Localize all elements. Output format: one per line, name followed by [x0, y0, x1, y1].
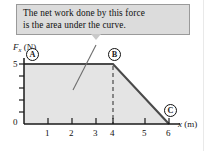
point-marker-a: A [26, 48, 39, 61]
x-tick-label-2: 2 [69, 128, 74, 138]
y-tick-label-5: 5 [13, 59, 18, 69]
point-marker-b: B [108, 48, 121, 61]
x-tick-label-6: 6 [166, 128, 171, 138]
y-tick-label-0: 0 [13, 117, 18, 127]
callout-line-1: The net work done by this force [23, 8, 183, 20]
x-tick-label-5: 5 [142, 128, 147, 138]
plot-area: Fx (N) x (m) [0, 40, 206, 151]
x-tick-label-1: 1 [45, 128, 50, 138]
x-tick-label-3: 3 [93, 128, 98, 138]
figure-root: The net work done by this force is the a… [0, 0, 206, 151]
callout-box: The net work done by this force is the a… [16, 4, 190, 35]
shaded-area [24, 64, 169, 124]
point-marker-c: C [164, 104, 177, 117]
callout-line-2: is the area under the curve. [23, 20, 183, 32]
x-tick-label-4: 4 [110, 128, 115, 138]
